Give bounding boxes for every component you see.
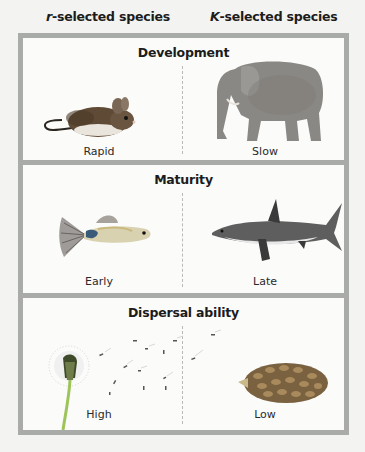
guppy-icon xyxy=(56,211,156,263)
r-selected-header: r-selected species xyxy=(46,9,170,24)
label-early: Early xyxy=(59,275,139,288)
mouse-icon xyxy=(40,90,140,142)
elephant-icon xyxy=(207,55,327,145)
comparison-frame: Development Rapid Slow Maturity xyxy=(18,33,349,435)
label-low: Low xyxy=(225,408,305,421)
panel-maturity: Maturity Early Late xyxy=(23,165,344,293)
label-late: Late xyxy=(225,275,305,288)
panel-dispersal: Dispersal ability xyxy=(23,298,344,430)
r-header-text: -selected species xyxy=(52,9,170,24)
pine-cone-icon xyxy=(236,358,332,408)
panel-title: Maturity xyxy=(23,172,344,187)
dashed-divider xyxy=(182,66,183,154)
k-letter: K xyxy=(210,9,220,24)
label-high: High xyxy=(59,408,139,421)
k-header-text: -selected species xyxy=(220,9,338,24)
label-slow: Slow xyxy=(225,145,305,158)
shark-icon xyxy=(208,195,344,265)
k-selected-header: K-selected species xyxy=(210,9,338,24)
panel-development: Development Rapid Slow xyxy=(23,38,344,160)
label-rapid: Rapid xyxy=(59,145,139,158)
dashed-divider xyxy=(182,193,183,287)
